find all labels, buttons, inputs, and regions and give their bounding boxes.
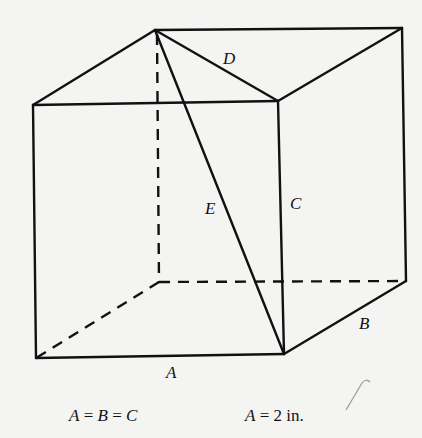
caption-equality-eq1: = — [79, 406, 97, 425]
edge-front-top — [33, 101, 278, 105]
edge-back-top — [155, 28, 402, 30]
caption-equality-b: B — [97, 406, 107, 425]
hidden-edge-vertical — [157, 34, 159, 282]
edge-front-left — [33, 105, 36, 358]
edge-a — [36, 354, 284, 358]
edge-c — [278, 101, 284, 354]
label-d: D — [223, 50, 235, 67]
edge-left-top — [33, 30, 155, 105]
caption-equality-eq2: = — [108, 406, 126, 425]
edge-back-right — [402, 28, 406, 281]
label-a: A — [166, 364, 176, 381]
cube-drawing — [0, 0, 422, 438]
label-b: B — [359, 315, 369, 332]
scratch-mark — [346, 380, 370, 410]
label-e: E — [205, 200, 215, 217]
diagonal-d — [155, 30, 278, 101]
edge-b — [284, 281, 406, 354]
hidden-edge-left-bottom — [36, 282, 159, 358]
edge-right-top — [278, 28, 402, 101]
caption-length-value: = 2 in. — [255, 406, 303, 425]
caption-length-a: A — [245, 406, 255, 425]
caption-length: A = 2 in. — [245, 407, 304, 424]
caption-equality-a: A — [69, 406, 79, 425]
caption-equality: A = B = C — [69, 407, 137, 424]
caption-equality-c: C — [126, 406, 137, 425]
cube-diagram: D E C B A A = B = C A = 2 in. — [0, 0, 422, 438]
label-c: C — [290, 195, 301, 212]
diagonal-e — [155, 30, 284, 354]
